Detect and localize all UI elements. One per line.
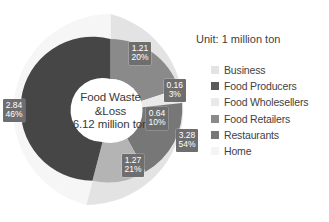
data-label-business: 3.28 54% <box>176 129 198 152</box>
data-label-restaurants: 0.64 10% <box>146 107 168 130</box>
unit-note: Unit: 1 million ton <box>196 33 280 45</box>
data-label-percent: 46% <box>6 110 23 120</box>
legend: Business Food Producers Food Wholeseller… <box>211 62 327 159</box>
donut-svg <box>8 6 213 216</box>
legend-item-food-retailers: Food Retailers <box>211 111 327 127</box>
legend-swatch-restaurants <box>211 131 219 139</box>
legend-label-business: Business <box>224 64 265 76</box>
data-label-food-producers: 2.84 46% <box>3 99 25 122</box>
legend-item-food-wholesellers: Food Wholesellers <box>211 94 327 110</box>
legend-swatch-home <box>211 147 219 155</box>
legend-item-food-producers: Food Producers <box>211 78 327 94</box>
data-label-home-inner: 1.27 21% <box>122 154 144 177</box>
donut-hole <box>79 79 143 143</box>
data-label-percent: 3% <box>167 90 184 100</box>
legend-swatch-food-wholesellers <box>211 98 219 106</box>
data-label-food-retailers: 1.21 20% <box>129 42 151 65</box>
legend-item-business: Business <box>211 62 327 78</box>
legend-swatch-business <box>211 66 219 74</box>
legend-label-food-producers: Food Producers <box>224 80 297 92</box>
legend-label-food-retailers: Food Retailers <box>224 113 290 125</box>
data-label-percent: 20% <box>132 53 149 63</box>
data-label-food-wholesellers: 0.16 3% <box>164 79 186 102</box>
legend-label-food-wholesellers: Food Wholesellers <box>224 96 308 108</box>
donut-graphic: Food Waste &Loss 6.12 million ton <box>8 6 213 216</box>
data-label-percent: 10% <box>149 118 166 128</box>
data-label-percent: 54% <box>179 140 196 150</box>
data-label-percent: 21% <box>125 165 142 175</box>
legend-swatch-food-producers <box>211 82 219 90</box>
legend-label-home: Home <box>224 145 251 157</box>
legend-label-restaurants: Restaurants <box>224 129 279 141</box>
legend-swatch-food-retailers <box>211 115 219 123</box>
legend-item-restaurants: Restaurants <box>211 127 327 143</box>
legend-item-home: Home <box>211 143 327 159</box>
food-waste-donut-chart: Food Waste &Loss 6.12 million ton 1.21 2… <box>0 0 329 222</box>
